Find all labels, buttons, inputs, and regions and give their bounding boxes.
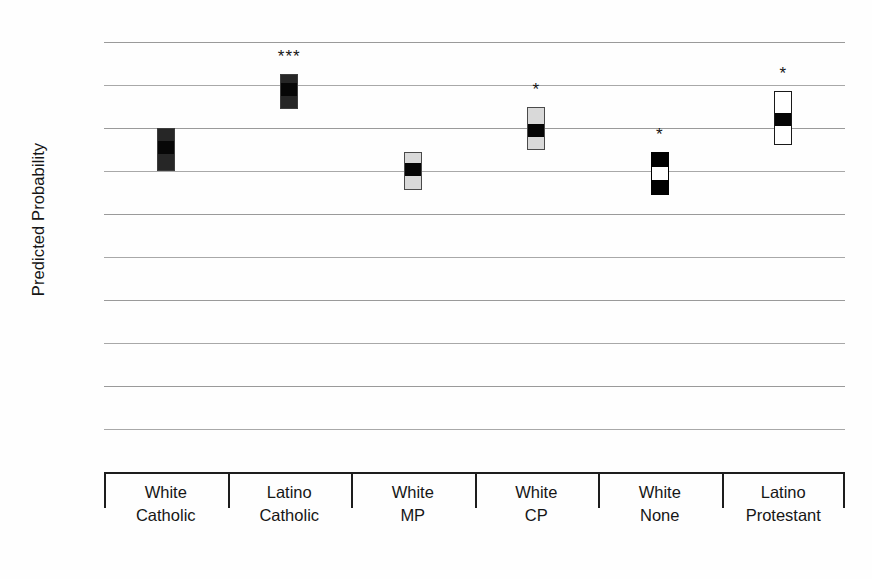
x-axis-category-label-line: MP [351, 504, 475, 527]
x-axis-category-label-line: White [598, 481, 722, 504]
x-axis-category-label: LatinoCatholic [228, 481, 352, 528]
x-axis-category-label-line: Latino [722, 481, 846, 504]
significance-marker: * [753, 65, 813, 82]
plot-area: 10.90.80.70.60.50.40.30.20.10****** [104, 42, 845, 472]
point-estimate-marker [775, 113, 791, 126]
significance-marker: * [630, 126, 690, 143]
y-axis-title: Predicted Probability [29, 90, 48, 350]
gridline [104, 128, 845, 129]
x-axis-category-label: WhiteMP [351, 481, 475, 528]
gridline [104, 214, 845, 215]
gridline [104, 257, 845, 258]
point-estimate-marker [528, 124, 544, 137]
point-estimate-marker [281, 83, 297, 96]
x-axis-category-label: WhiteCP [475, 481, 599, 528]
x-axis-category-label-line: White [351, 481, 475, 504]
x-axis-category-label: WhiteNone [598, 481, 722, 528]
gridline [104, 429, 845, 430]
x-axis-category-label: LatinoProtestant [722, 481, 846, 528]
x-axis-category-label-line: Catholic [104, 504, 228, 527]
gridline [104, 171, 845, 172]
gridline [104, 386, 845, 387]
x-axis-category-label-line: None [598, 504, 722, 527]
significance-marker: * [506, 81, 566, 98]
point-estimate-marker [652, 167, 668, 180]
x-axis-category-label-line: White [475, 481, 599, 504]
gridline [104, 42, 845, 43]
x-axis-category-label-line: Protestant [722, 504, 846, 527]
x-axis-category-label: WhiteCatholic [104, 481, 228, 528]
gridline [104, 343, 845, 344]
significance-marker: *** [259, 48, 319, 65]
gridline [104, 300, 845, 301]
x-axis-category-label-line: CP [475, 504, 599, 527]
x-axis-category-label-line: Latino [228, 481, 352, 504]
chart-figure: Predicted Probability 10.90.80.70.60.50.… [0, 0, 872, 579]
x-axis-category-label-line: White [104, 481, 228, 504]
x-axis-category-label-line: Catholic [228, 504, 352, 527]
point-estimate-marker [158, 141, 174, 154]
point-estimate-marker [405, 163, 421, 176]
gridline [104, 85, 845, 86]
x-axis-separator [843, 472, 845, 508]
x-axis-separator [104, 472, 106, 508]
